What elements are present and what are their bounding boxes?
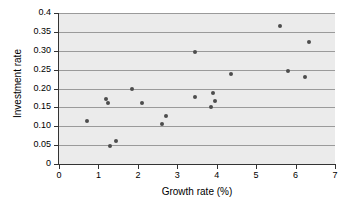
x-tick-mark: [138, 164, 139, 169]
data-point: [164, 114, 168, 118]
y-tick-label: 0: [46, 159, 51, 168]
data-point: [193, 95, 197, 99]
y-tick-label: 0.30: [33, 46, 51, 55]
gridline: [59, 107, 335, 108]
gridline: [59, 70, 335, 71]
data-point: [286, 69, 290, 73]
data-point: [209, 105, 213, 109]
y-tick-label: 0.10: [33, 121, 51, 130]
x-tick-mark: [256, 164, 257, 169]
y-tick-label: 0.15: [33, 102, 51, 111]
gridline: [59, 89, 335, 90]
x-tick-label: 4: [210, 171, 224, 180]
x-tick-label: 5: [249, 171, 263, 180]
y-tick-label: 0.20: [33, 84, 51, 93]
y-axis-title: Investment rate: [12, 24, 23, 144]
data-point: [140, 101, 144, 105]
y-tick-mark: [54, 32, 59, 33]
data-point: [85, 119, 89, 123]
y-tick-label: 0.05: [33, 140, 51, 149]
x-tick-mark: [98, 164, 99, 169]
y-tick-mark: [54, 107, 59, 108]
x-axis-title: Growth rate (%): [59, 186, 335, 197]
y-tick-mark: [54, 126, 59, 127]
data-point: [193, 50, 197, 54]
x-tick-mark: [59, 164, 60, 169]
data-point: [108, 144, 112, 148]
data-point: [130, 87, 134, 91]
y-tick-mark: [54, 13, 59, 14]
data-point: [106, 101, 110, 105]
y-tick-mark: [54, 89, 59, 90]
x-tick-mark: [296, 164, 297, 169]
x-tick-label: 7: [328, 171, 342, 180]
x-tick-label: 2: [131, 171, 145, 180]
gridline: [59, 51, 335, 52]
x-tick-label: 1: [91, 171, 105, 180]
data-point: [211, 91, 215, 95]
data-point: [307, 40, 311, 44]
y-tick-label: 0.25: [33, 65, 51, 74]
gridline: [59, 32, 335, 33]
x-tick-label: 6: [289, 171, 303, 180]
scatter-chart-figure: 00.050.100.150.200.250.300.350.4 0123456…: [0, 0, 348, 210]
data-point: [114, 139, 118, 143]
x-axis-line: [58, 164, 336, 165]
gridline: [59, 145, 335, 146]
gridline: [59, 126, 335, 127]
data-point: [213, 99, 217, 103]
x-tick-mark: [177, 164, 178, 169]
data-point: [160, 122, 164, 126]
data-point: [229, 72, 233, 76]
x-tick-mark: [335, 164, 336, 169]
plot-area: [59, 13, 335, 164]
x-tick-label: 3: [170, 171, 184, 180]
data-point: [303, 75, 307, 79]
data-point: [278, 24, 282, 28]
x-tick-mark: [217, 164, 218, 169]
y-tick-mark: [54, 51, 59, 52]
y-tick-label: 0.4: [38, 8, 51, 17]
y-tick-label: 0.35: [33, 27, 51, 36]
y-tick-mark: [54, 145, 59, 146]
x-tick-label: 0: [52, 171, 66, 180]
gridline: [59, 13, 335, 14]
y-tick-mark: [54, 70, 59, 71]
